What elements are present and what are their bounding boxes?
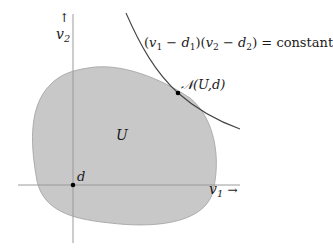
eq-equals: = xyxy=(257,35,276,50)
disagreement-point xyxy=(71,183,76,188)
point-d-label: d xyxy=(77,170,85,183)
y-axis-label: v2 xyxy=(56,27,70,41)
eq-rhs: constant xyxy=(276,35,333,50)
x-axis-var: v xyxy=(209,181,217,197)
region-u-label: U xyxy=(116,128,128,142)
curve-equation: (v1 − d1)(v2 − d2) = constant xyxy=(144,36,333,49)
eq-minus: − xyxy=(219,35,238,50)
eq-d1: d xyxy=(181,35,189,50)
x-axis-sub: 1 xyxy=(217,188,223,199)
y-axis-sub: 2 xyxy=(64,33,70,44)
eq-v2: v xyxy=(206,35,213,50)
x-axis-label: v1 → xyxy=(209,182,238,196)
eq-minus: − xyxy=(162,35,181,50)
nash-solution-point xyxy=(176,91,181,96)
nash-solution-label: 𝒩(U,d) xyxy=(181,78,225,91)
y-axis-arrow: ↑ xyxy=(59,12,69,24)
y-axis-var: v xyxy=(56,26,64,42)
x-axis-arrow: → xyxy=(228,183,238,197)
